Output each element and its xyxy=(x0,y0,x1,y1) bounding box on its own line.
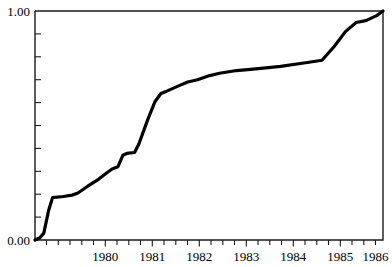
chart-background xyxy=(0,0,392,267)
x-axis-label-1983: 1983 xyxy=(233,249,259,264)
y-axis-label-top: 1.00 xyxy=(7,4,30,19)
cumulative-distribution-line-chart: 1.00 0.00 1980 1981 1982 1983 1984 1985 … xyxy=(0,0,392,267)
x-axis-label-1981: 1981 xyxy=(139,249,165,264)
x-axis-label-1986: 1986 xyxy=(363,249,390,264)
x-axis-label-1980: 1980 xyxy=(92,249,118,264)
y-axis-label-bottom: 0.00 xyxy=(7,233,30,248)
x-axis-label-1982: 1982 xyxy=(186,249,212,264)
chart-container: 1.00 0.00 1980 1981 1982 1983 1984 1985 … xyxy=(0,0,392,267)
x-axis-label-1984: 1984 xyxy=(280,249,307,264)
x-axis-label-1985: 1985 xyxy=(327,249,353,264)
